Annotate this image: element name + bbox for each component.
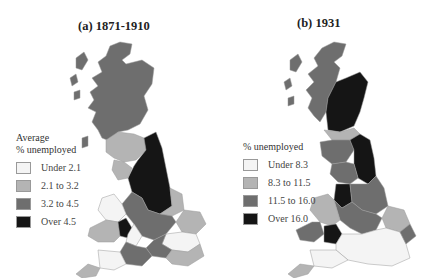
legend-item: 2.1 to 3.2	[16, 177, 81, 195]
legend-label: Over 4.5	[41, 216, 76, 228]
map-1871-1910	[62, 38, 232, 278]
legend-swatch	[16, 162, 31, 174]
legend-title-line: % unemployed	[243, 141, 315, 153]
legend-swatch	[243, 195, 258, 207]
legend-swatch	[16, 198, 31, 210]
region-south-scotland	[320, 140, 354, 164]
legend-item: Under 8.3	[243, 156, 315, 174]
legend-label: Under 2.1	[41, 162, 81, 174]
legend-swatch	[243, 177, 258, 189]
legend-item: Under 2.1	[16, 159, 81, 177]
legend-label: 11.5 to 16.0	[268, 195, 315, 207]
legend-swatch	[243, 159, 258, 171]
legend-1871-1910: Average % unemployed Under 2.1 2.1 to 3.…	[16, 132, 81, 231]
region-wales-south	[88, 220, 122, 242]
region-highlands	[88, 42, 154, 142]
legend-swatch	[16, 216, 31, 228]
legend-swatch	[243, 213, 258, 225]
legend-label: 2.1 to 3.2	[41, 180, 79, 192]
legend-1931: % unemployed Under 8.3 8.3 to 11.5 11.5 …	[243, 141, 315, 228]
legend-label: Under 8.3	[268, 159, 308, 171]
region-cumbria	[330, 162, 358, 184]
region-east-anglia	[176, 210, 206, 234]
legend-label: Over 16.0	[268, 213, 308, 225]
region-cornwall	[76, 264, 100, 278]
legend-swatch	[16, 180, 31, 192]
panel-a-title: (a) 1871-1910	[78, 19, 150, 34]
legend-item: 11.5 to 16.0	[243, 192, 315, 210]
legend-item: 8.3 to 11.5	[243, 174, 315, 192]
legend-title-line: Average	[16, 132, 81, 144]
legend-item: 3.2 to 4.5	[16, 195, 81, 213]
legend-item: Over 4.5	[16, 213, 81, 231]
legend-label: 8.3 to 11.5	[268, 177, 310, 189]
region-islands	[284, 54, 302, 106]
legend-label: 3.2 to 4.5	[41, 198, 79, 210]
region-cornwall	[288, 264, 314, 278]
legend-item: Over 16.0	[243, 210, 315, 228]
panel-b-title: (b) 1931	[297, 16, 340, 31]
region-wales-north	[98, 194, 126, 222]
legend-title-line: % unemployed	[16, 144, 81, 156]
